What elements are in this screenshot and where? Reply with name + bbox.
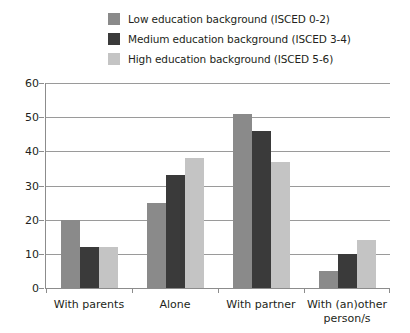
y-axis-labels: 0102030405060	[5, 83, 39, 288]
x-tick-mark	[132, 288, 133, 293]
x-tick-label-line: Alone	[132, 298, 218, 312]
bar	[185, 158, 204, 288]
y-tick-mark	[39, 117, 44, 118]
bar	[147, 203, 166, 288]
y-tick-mark	[39, 254, 44, 255]
bar	[271, 162, 290, 288]
legend-item: Low education background (ISCED 0-2)	[108, 9, 398, 28]
bar	[80, 247, 99, 288]
x-tick-label-line: person/s	[304, 312, 390, 326]
x-tick-label-line: With parents	[46, 298, 132, 312]
legend-item-label: Medium education background (ISCED 3-4)	[128, 33, 351, 45]
x-tick-label: With (an)otherperson/s	[304, 298, 390, 326]
legend-item-label: Low education background (ISCED 0-2)	[128, 13, 330, 25]
y-tick-label: 10	[7, 249, 39, 260]
bar-group	[304, 83, 390, 288]
y-tick-label: 40	[7, 146, 39, 157]
x-axis-labels: With parentsAloneWith partnerWith (an)ot…	[46, 298, 390, 332]
bar	[166, 175, 185, 288]
y-tick-label: 20	[7, 215, 39, 226]
x-tick-mark	[218, 288, 219, 293]
legend-swatch-icon	[108, 53, 120, 65]
x-axis-ticks	[46, 288, 390, 294]
x-tick-label: With parents	[46, 298, 132, 312]
y-tick-mark	[39, 83, 44, 84]
bar-group	[46, 83, 132, 288]
bar	[338, 254, 357, 288]
y-tick-mark	[39, 186, 44, 187]
legend-item: High education background (ISCED 5-6)	[108, 49, 398, 68]
x-tick-label-line: With partner	[218, 298, 304, 312]
y-tick-label: 60	[7, 78, 39, 89]
bar-chart: Low education background (ISCED 0-2) Med…	[0, 0, 410, 333]
legend-swatch-icon	[108, 33, 120, 45]
x-tick-label: Alone	[132, 298, 218, 312]
bar	[61, 220, 80, 288]
legend-item: Medium education background (ISCED 3-4)	[108, 29, 398, 48]
y-tick-mark	[39, 151, 44, 152]
y-tick-label: 50	[7, 112, 39, 123]
bar-group	[132, 83, 218, 288]
bars-layer	[46, 83, 390, 288]
y-tick-label: 0	[7, 283, 39, 294]
y-tick-mark	[39, 288, 44, 289]
bar	[233, 114, 252, 288]
bar	[252, 131, 271, 288]
chart-legend: Low education background (ISCED 0-2) Med…	[108, 9, 398, 69]
legend-swatch-icon	[108, 13, 120, 25]
bar	[319, 271, 338, 288]
x-tick-label: With partner	[218, 298, 304, 312]
legend-item-label: High education background (ISCED 5-6)	[128, 53, 333, 65]
y-tick-label: 30	[7, 181, 39, 192]
bar-group	[218, 83, 304, 288]
x-tick-mark	[46, 288, 47, 293]
x-tick-label-line: With (an)other	[304, 298, 390, 312]
x-tick-mark	[304, 288, 305, 293]
bar	[357, 240, 376, 288]
x-tick-mark	[389, 288, 390, 293]
bar	[99, 247, 118, 288]
y-tick-mark	[39, 220, 44, 221]
